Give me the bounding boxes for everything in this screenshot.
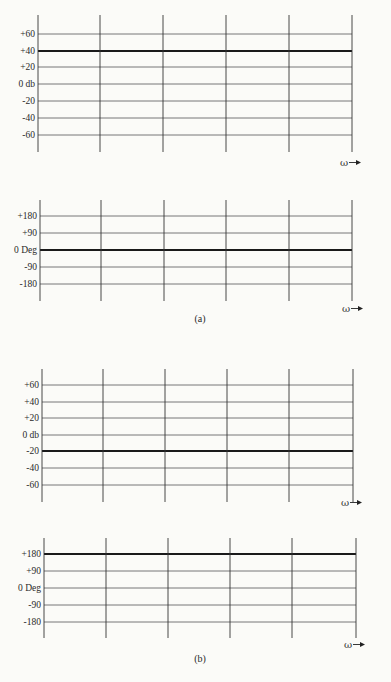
chart-panel: +180+900 Deg-90-180ω bbox=[14, 200, 363, 314]
y-tick-label: -40 bbox=[26, 463, 39, 473]
arrow-head-icon bbox=[360, 642, 365, 647]
y-tick-label: -60 bbox=[26, 480, 39, 490]
y-tick-label: -60 bbox=[22, 130, 35, 140]
arrow-head-icon bbox=[357, 500, 362, 505]
y-tick-label: +90 bbox=[22, 228, 37, 238]
y-tick-label: +20 bbox=[24, 413, 39, 423]
y-tick-label: +60 bbox=[24, 380, 39, 390]
y-tick-label: 0 db bbox=[22, 430, 39, 440]
y-tick-label: +60 bbox=[20, 29, 35, 39]
y-tick-label: +90 bbox=[26, 566, 41, 576]
x-axis-label: ω bbox=[342, 303, 350, 314]
y-tick-label: 0 Deg bbox=[14, 245, 37, 255]
chart-panel: +60+40+200 db-20-40-60ω bbox=[18, 15, 361, 168]
y-tick-label: -20 bbox=[26, 446, 39, 456]
arrow-head-icon bbox=[358, 306, 363, 311]
y-tick-label: +20 bbox=[20, 62, 35, 72]
y-tick-label: +180 bbox=[21, 549, 41, 559]
y-tick-label: -90 bbox=[28, 600, 41, 610]
x-axis-label: ω bbox=[341, 497, 349, 508]
figure-caption: (b) bbox=[194, 653, 206, 665]
figure-caption: (a) bbox=[194, 313, 205, 325]
y-tick-label: 0 db bbox=[18, 79, 35, 89]
y-tick-label: +40 bbox=[24, 397, 39, 407]
y-tick-label: 0 Deg bbox=[18, 583, 41, 593]
chart-panel: +60+40+200 db-20-40-60ω bbox=[22, 369, 362, 508]
y-tick-label: +40 bbox=[20, 46, 35, 56]
y-tick-label: -180 bbox=[24, 617, 42, 627]
y-tick-label: -180 bbox=[20, 279, 38, 289]
y-tick-label: -40 bbox=[22, 113, 35, 123]
bode-plot-figure: +60+40+200 db-20-40-60ω+180+900 Deg-90-1… bbox=[0, 0, 391, 682]
x-axis-label: ω bbox=[340, 157, 348, 168]
arrow-head-icon bbox=[356, 160, 361, 165]
x-axis-label: ω bbox=[344, 639, 352, 650]
y-tick-label: -20 bbox=[22, 96, 35, 106]
chart-panel: +180+900 Deg-90-180ω bbox=[18, 538, 365, 650]
y-tick-label: -90 bbox=[24, 262, 37, 272]
y-tick-label: +180 bbox=[17, 211, 37, 221]
